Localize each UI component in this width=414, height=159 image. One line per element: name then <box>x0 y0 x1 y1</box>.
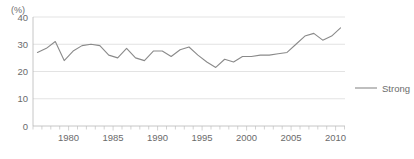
x-tick-label-1980: 1980 <box>58 132 79 143</box>
x-tick-label-1990: 1990 <box>147 132 168 143</box>
x-tick-label-2000: 2000 <box>236 132 257 143</box>
x-tick-label-1985: 1985 <box>103 132 124 143</box>
x-tick-label-2005: 2005 <box>281 132 302 143</box>
gridlines <box>33 17 345 99</box>
y-axis-tick-labels: 40 30 20 10 0 <box>17 12 28 132</box>
chart-container: (%) 40 30 20 10 0 1980 1985 1990 1995 20… <box>0 0 414 159</box>
series-line-strong <box>37 28 340 68</box>
y-tick-label-30: 30 <box>17 39 28 50</box>
x-axis-tick-labels: 1980 1985 1990 1995 2000 2005 2010 <box>58 132 346 143</box>
y-tick-label-40: 40 <box>17 12 28 23</box>
legend: Strong <box>355 83 410 94</box>
y-tick-label-0: 0 <box>23 121 28 132</box>
legend-label-strong: Strong <box>382 83 410 94</box>
x-axis-tick-marks <box>33 126 345 131</box>
x-tick-label-2010: 2010 <box>325 132 346 143</box>
y-tick-label-20: 20 <box>17 66 28 77</box>
x-tick-label-1995: 1995 <box>192 132 213 143</box>
line-chart: (%) 40 30 20 10 0 1980 1985 1990 1995 20… <box>0 0 414 159</box>
y-tick-label-10: 10 <box>17 93 28 104</box>
